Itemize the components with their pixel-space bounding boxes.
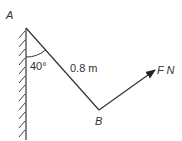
label-length: 0.8 m	[70, 62, 98, 74]
label-force: F N	[157, 64, 175, 76]
label-point-b: B	[95, 115, 102, 127]
label-angle: 40°	[30, 60, 47, 72]
wall	[19, 28, 26, 140]
force-arrow	[99, 70, 155, 110]
diagram-canvas: A 40° 0.8 m B F N	[0, 0, 182, 141]
wall-hatching	[19, 31, 25, 137]
label-point-a: A	[5, 9, 13, 21]
angle-arc	[26, 50, 46, 57]
